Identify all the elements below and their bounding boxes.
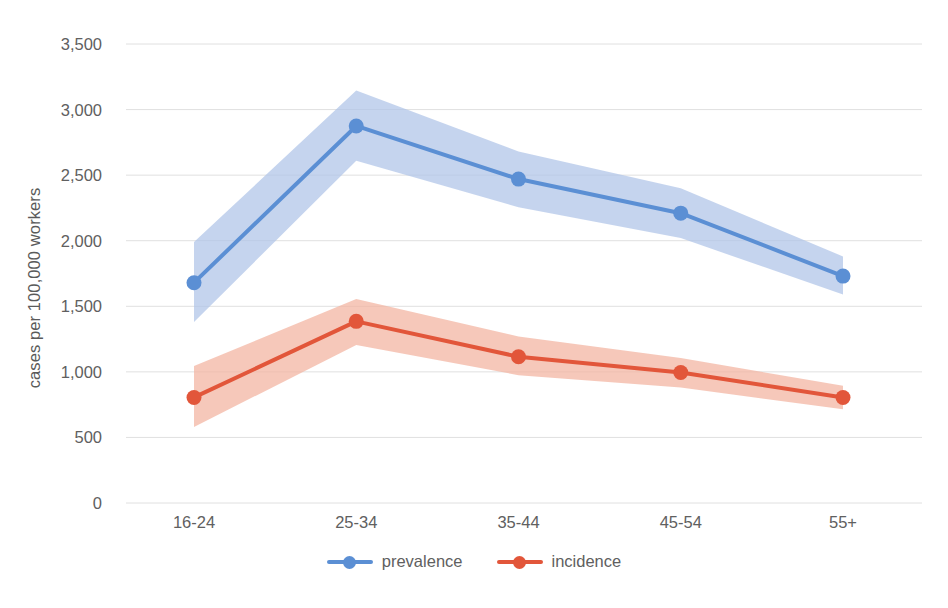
data-point-prevalence[interactable] [187,275,202,290]
y-axis-title: cases per 100,000 workers [16,58,52,518]
confidence-bands [194,91,843,427]
y-axis-tick-label: 3,500 [12,35,102,54]
data-point-incidence[interactable] [511,349,526,364]
data-point-prevalence[interactable] [511,172,526,187]
y-axis-tick-label: 1,000 [12,362,102,381]
legend-label: incidence [552,552,622,571]
chart-legend: prevalenceincidence [0,552,948,571]
y-axis-tick-label: 500 [12,428,102,447]
data-point-prevalence[interactable] [673,206,688,221]
data-point-incidence[interactable] [187,390,202,405]
y-axis-tick-label: 2,500 [12,166,102,185]
y-axis-tick-label: 2,000 [12,231,102,250]
y-axis-tick-label: 3,000 [12,100,102,119]
y-axis-tick-label: 1,500 [12,297,102,316]
line-marker-icon [327,554,373,570]
x-axis-tick-label: 25-34 [296,513,416,532]
legend-item-incidence[interactable]: incidence [497,552,622,571]
data-point-prevalence[interactable] [836,269,851,284]
x-axis-tick-label: 16-24 [134,513,254,532]
line-chart: cases per 100,000 workers 05001,0001,500… [0,0,948,608]
line-marker-icon [497,554,543,570]
data-point-incidence[interactable] [673,365,688,380]
confidence-band-prevalence [194,91,843,322]
x-axis-tick-label: 45-54 [621,513,741,532]
data-point-prevalence[interactable] [349,118,364,133]
x-axis-tick-label: 35-44 [459,513,579,532]
y-axis-tick-label: 0 [12,494,102,513]
legend-label: prevalence [382,552,463,571]
data-point-incidence[interactable] [349,314,364,329]
data-point-incidence[interactable] [836,390,851,405]
x-axis-tick-label: 55+ [783,513,903,532]
legend-item-prevalence[interactable]: prevalence [327,552,463,571]
